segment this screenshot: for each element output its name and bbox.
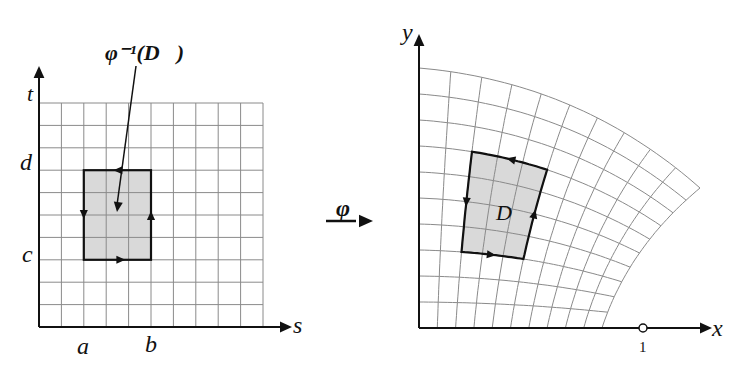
mapped-grid-line-s [602, 188, 700, 328]
x-axis-arrow-icon [700, 323, 712, 334]
tick-a-label: a [77, 334, 89, 358]
mapping-phi-label: φ [336, 196, 350, 220]
mapping-arrow-head-icon [359, 215, 373, 228]
mapped-grid-line-s [547, 133, 624, 328]
unit-point-marker [639, 324, 647, 332]
y-axis-label: y [402, 20, 413, 44]
s-axis-arrow-icon [280, 322, 292, 333]
t-axis-arrow-icon [34, 66, 45, 78]
tick-c-label: c [22, 242, 33, 266]
tick-one-label: 1 [639, 340, 647, 355]
x-axis-label: x [712, 316, 723, 340]
t-axis-label: t [27, 83, 33, 105]
diagram-canvas: t s a b c d φ⁻¹(D⃗) φ y x 1 D⃗ [0, 0, 740, 366]
tick-b-label: b [145, 332, 157, 356]
region-d-label: D⃗ [496, 202, 529, 224]
mapped-grid-line-t [419, 68, 700, 188]
tick-d-label: d [20, 150, 32, 174]
s-axis-label: s [293, 313, 302, 337]
preimage-region-label: φ⁻¹(D⃗) [105, 42, 184, 64]
mapped-grid-line-s [529, 118, 598, 328]
mapped-grid-line-t [419, 120, 673, 213]
y-axis-arrow-icon [414, 34, 425, 46]
